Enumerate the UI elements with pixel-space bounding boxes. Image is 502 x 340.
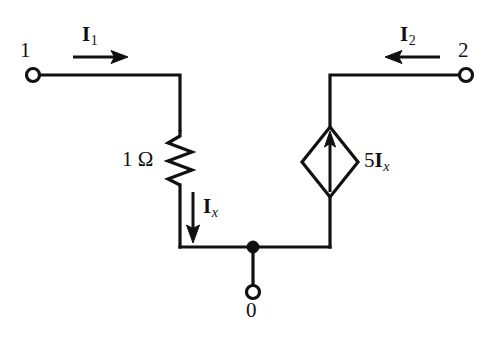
wire-group xyxy=(36,75,463,287)
wire-node2-to-source xyxy=(330,75,463,128)
terminal-node-2[interactable] xyxy=(460,69,473,82)
wire-node1-to-resistor xyxy=(36,75,180,130)
resistor-symbol xyxy=(168,130,192,185)
node-0-label: 0 xyxy=(246,300,257,321)
current-ix-symbol: I xyxy=(203,194,211,218)
current-arrow-ix-icon xyxy=(187,192,200,243)
dependent-source-coefficient: 5 xyxy=(364,148,375,172)
current-arrow-i1-icon xyxy=(73,51,128,64)
terminal-node-0[interactable] xyxy=(247,286,260,299)
dependent-source-label: 5Ix xyxy=(364,150,389,174)
current-ix-subscript: x xyxy=(211,205,218,220)
node-1-label: 1 xyxy=(20,40,31,61)
circuit-schematic-canvas xyxy=(0,0,502,340)
current-i2-symbol: I xyxy=(400,22,408,46)
terminal-node-1[interactable] xyxy=(27,69,40,82)
current-i1-subscript: 1 xyxy=(90,33,98,48)
dependent-source-subscript: x xyxy=(383,159,390,174)
current-i1-symbol: I xyxy=(82,22,90,46)
current-i2-label: I2 xyxy=(400,24,416,48)
resistor-value-label: 1 Ω xyxy=(122,149,153,170)
junction-dot xyxy=(247,241,259,253)
current-arrow-i2-icon xyxy=(385,51,440,64)
dependent-source-arrow-icon xyxy=(325,131,336,192)
current-ix-label: Ix xyxy=(203,196,218,220)
current-i2-subscript: 2 xyxy=(408,33,416,48)
current-i1-label: I1 xyxy=(82,24,98,48)
node-2-label: 2 xyxy=(458,40,469,61)
circuit-diagram: 1 2 0 I1 I2 Ix 1 Ω 5Ix xyxy=(0,0,502,340)
dependent-source-symbol: I xyxy=(375,148,383,172)
